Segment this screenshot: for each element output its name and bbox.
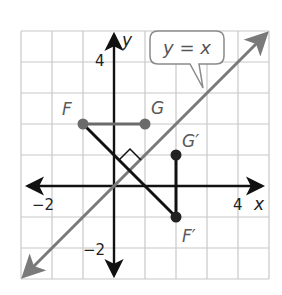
tick-label-y-neg2: −2 xyxy=(83,241,105,259)
coordinate-plane-diagram: −2 4 x 4 −2 y F G G′ F′ y = x xyxy=(0,0,282,295)
point-G xyxy=(140,119,151,130)
tick-label-y-4: 4 xyxy=(95,52,105,70)
point-F xyxy=(78,119,89,130)
x-axis-label: x xyxy=(253,194,265,214)
label-F-prime: F′ xyxy=(182,226,196,246)
point-F-prime xyxy=(171,212,182,223)
tick-label-x-neg2: −2 xyxy=(32,196,54,214)
label-G-prime: G′ xyxy=(182,131,199,151)
tick-label-x-4: 4 xyxy=(233,196,243,214)
y-axis-label: y xyxy=(121,30,133,50)
callout-text: y = x xyxy=(162,37,211,58)
point-G-prime xyxy=(171,150,182,161)
label-G: G xyxy=(151,98,164,118)
callout-y-equals-x: y = x xyxy=(150,31,224,88)
label-F: F xyxy=(62,99,72,119)
